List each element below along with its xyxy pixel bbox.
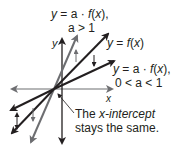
- intercept-pointer: [58, 94, 74, 113]
- x-axis-label: x: [106, 92, 111, 105]
- shrink-condition: 0 < a < 1: [115, 77, 162, 90]
- stretch-condition: a > 1: [68, 22, 95, 35]
- y-axis-label: y: [52, 37, 58, 50]
- vertical-stretch-diagram: y = a · f(x), a > 1 y y = f(x) y = a · f…: [0, 0, 181, 149]
- base-equation: y = f(x): [107, 37, 144, 50]
- stretch-equation: y = a · f(x),: [51, 8, 109, 21]
- intercept-note-line2: stays the same.: [75, 122, 159, 135]
- shrink-equation: y = a · f(x),: [113, 63, 171, 76]
- intercept-note-line1: The x-intercept: [75, 108, 155, 121]
